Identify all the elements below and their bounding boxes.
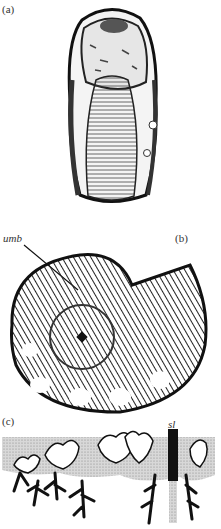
ammonite-side-view-illustration xyxy=(0,225,221,415)
panel-b: umb (b) xyxy=(0,225,221,415)
suture-line-illustration xyxy=(0,415,221,529)
ammonite-front-view-illustration xyxy=(0,0,221,210)
panel-c: (c) sl xyxy=(0,415,221,529)
panel-a: (a) xyxy=(0,0,221,210)
